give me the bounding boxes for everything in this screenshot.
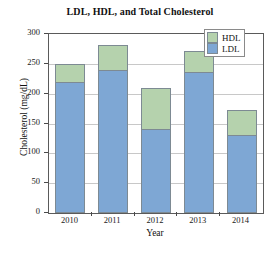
- y-tick-mark: [44, 182, 48, 183]
- y-tick-label: 200: [14, 88, 40, 97]
- bar-segment-hdl[interactable]: [98, 45, 128, 69]
- y-tick-label: 150: [14, 118, 40, 127]
- bar-segment-ldl[interactable]: [55, 82, 85, 213]
- y-tick-mark: [44, 123, 48, 124]
- y-tick-label: 50: [14, 177, 40, 186]
- cholesterol-bar-chart: LDL, HDL, and Total Cholesterol Choleste…: [0, 0, 280, 253]
- y-tick-label: 300: [14, 28, 40, 37]
- bar-group[interactable]: [98, 45, 128, 213]
- x-tick-label: 2013: [178, 215, 218, 225]
- legend-item-ldl: LDL: [207, 43, 241, 54]
- y-tick-mark: [44, 33, 48, 34]
- bar-segment-ldl[interactable]: [141, 129, 171, 213]
- y-tick-mark: [44, 63, 48, 64]
- bar-segment-hdl[interactable]: [141, 88, 171, 130]
- y-tick-mark: [44, 212, 48, 213]
- legend-label-hdl: HDL: [222, 33, 241, 43]
- legend-label-ldl: LDL: [222, 44, 240, 54]
- y-tick-mark: [44, 93, 48, 94]
- bar-segment-ldl[interactable]: [98, 70, 128, 213]
- bar-group[interactable]: [184, 51, 214, 213]
- y-tick-label: 100: [14, 147, 40, 156]
- bar-segment-hdl[interactable]: [227, 110, 257, 134]
- bar-segment-hdl[interactable]: [55, 64, 85, 82]
- x-tick-mark: [219, 212, 220, 216]
- x-tick-mark: [176, 212, 177, 216]
- x-tick-label: 2011: [92, 215, 132, 225]
- x-tick-label: 2012: [135, 215, 175, 225]
- bar-group[interactable]: [141, 88, 171, 213]
- chart-legend: HDL LDL: [204, 29, 245, 57]
- legend-swatch-hdl-icon: [207, 32, 218, 43]
- bar-segment-ldl[interactable]: [227, 135, 257, 213]
- x-tick-label: 2010: [49, 215, 89, 225]
- y-tick-mark: [44, 152, 48, 153]
- plot-area: [48, 33, 264, 214]
- x-tick-mark: [91, 212, 92, 216]
- x-tick-mark: [134, 212, 135, 216]
- legend-swatch-ldl-icon: [207, 43, 218, 54]
- bar-group[interactable]: [55, 64, 85, 213]
- x-axis-title: Year: [48, 228, 262, 238]
- x-tick-label: 2014: [221, 215, 261, 225]
- y-tick-label: 0: [14, 207, 40, 216]
- bar-segment-ldl[interactable]: [184, 72, 214, 213]
- legend-item-hdl: HDL: [207, 32, 241, 43]
- bar-group[interactable]: [227, 110, 257, 213]
- bars-layer: [49, 34, 263, 213]
- y-tick-label: 250: [14, 58, 40, 67]
- chart-title: LDL, HDL, and Total Cholesterol: [0, 6, 280, 17]
